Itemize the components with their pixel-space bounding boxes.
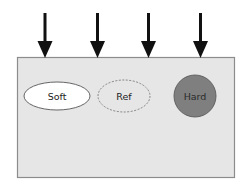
inclusion-soft: Soft (24, 82, 90, 110)
inclusion-ref-label: Ref (116, 91, 132, 102)
arrow-3-icon (141, 13, 156, 58)
substrate-block (18, 58, 235, 178)
inclusion-hard: Hard (174, 75, 216, 117)
arrow-2-icon (90, 13, 105, 58)
inclusion-ref: Ref (98, 80, 150, 112)
inclusion-hard-label: Hard (184, 91, 207, 102)
diagram-canvas: Soft Ref Hard (0, 0, 246, 189)
arrow-1-icon (38, 13, 53, 58)
arrow-4-icon (193, 13, 208, 58)
inclusion-soft-label: Soft (48, 91, 67, 102)
